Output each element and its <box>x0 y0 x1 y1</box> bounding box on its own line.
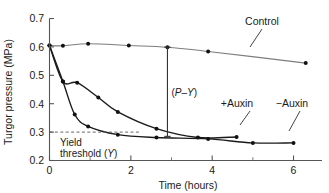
series-label-auxin: −Auxin <box>276 97 309 109</box>
x-axis-title: Time (hours) <box>158 179 217 191</box>
y-tick-label: 0.5 <box>29 69 44 81</box>
x-tick-label: 6 <box>291 164 297 176</box>
data-point <box>116 133 120 137</box>
data-point <box>61 44 65 48</box>
data-point <box>304 61 308 65</box>
yield-threshold-label-line2: threshold (Y) <box>60 148 117 159</box>
y-tick-label: 0.2 <box>29 154 44 166</box>
y-tick-label: 0.7 <box>29 12 44 24</box>
y-tick-label: 0.3 <box>29 126 44 138</box>
x-tick-label: 2 <box>128 164 134 176</box>
data-point <box>251 141 255 145</box>
series-label-control: Control <box>245 15 279 27</box>
data-point <box>206 49 210 53</box>
data-point <box>75 81 79 85</box>
data-point <box>292 141 296 145</box>
data-point <box>206 137 210 141</box>
x-tick-label: 4 <box>209 164 215 176</box>
data-point <box>73 112 77 116</box>
turgor-pressure-line-chart: 0.20.30.40.50.60.70246Yieldthreshold (Y)… <box>0 0 329 193</box>
p-minus-y-label: (P–Y) <box>171 87 197 98</box>
data-point <box>235 135 239 139</box>
y-tick-label: 0.4 <box>29 98 44 110</box>
data-point <box>116 110 120 114</box>
y-tick-label: 0.6 <box>29 41 44 53</box>
data-point <box>86 42 90 46</box>
data-point <box>96 95 100 99</box>
data-point <box>86 124 90 128</box>
chart-figure: 0.20.30.40.50.60.70246Yieldthreshold (Y)… <box>0 0 329 193</box>
data-point <box>154 136 158 140</box>
data-point <box>154 127 158 131</box>
series-label-auxin: +Auxin <box>221 97 254 109</box>
data-point <box>61 80 65 84</box>
x-tick-label: 0 <box>47 164 53 176</box>
y-axis-title: Turgor pressure (MPa) <box>2 39 14 145</box>
yield-threshold-label-line1: Yield <box>60 137 82 148</box>
data-point <box>127 43 131 47</box>
